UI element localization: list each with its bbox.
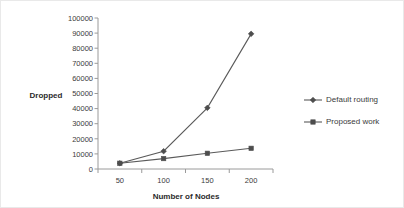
x-tick-label: 100 xyxy=(157,176,170,185)
series-layer xyxy=(117,31,254,166)
y-tick-label: 80000 xyxy=(72,44,93,53)
legend-label: Proposed work xyxy=(326,117,380,126)
y-axis-title: Dropped xyxy=(30,91,63,100)
legend-diamond-icon xyxy=(310,97,316,103)
y-tick-label: 40000 xyxy=(72,104,93,113)
y-tick-label: 0 xyxy=(89,165,93,174)
legend-item-2[interactable]: Proposed work xyxy=(304,117,380,126)
series-1 xyxy=(117,31,254,166)
y-tick-label: 90000 xyxy=(72,29,93,38)
chart-legend: Default routingProposed work xyxy=(304,95,380,126)
legend-label: Default routing xyxy=(326,95,378,104)
legend-item-1[interactable]: Default routing xyxy=(304,95,378,104)
x-tick-label: 150 xyxy=(201,176,214,185)
data-point-marker xyxy=(161,156,165,160)
y-axis-tick-labels: 0100002000030000400005000060000700008000… xyxy=(68,14,93,174)
y-tick-label: 10000 xyxy=(72,150,93,159)
y-tick-label: 70000 xyxy=(72,59,93,68)
series-line xyxy=(120,148,251,163)
data-point-marker xyxy=(205,151,209,155)
legend-square-icon xyxy=(311,120,315,124)
y-tick-label: 50000 xyxy=(72,89,93,98)
data-point-marker xyxy=(248,31,254,37)
y-tick-label: 100000 xyxy=(68,14,93,23)
data-point-marker xyxy=(118,161,122,165)
series-line xyxy=(120,34,251,163)
x-tick-label: 200 xyxy=(245,176,258,185)
y-tick-label: 20000 xyxy=(72,135,93,144)
x-tick-label: 50 xyxy=(116,176,124,185)
y-axis-tick-marks xyxy=(95,18,99,169)
y-tick-label: 60000 xyxy=(72,74,93,83)
x-axis-tick-labels: 50100150200 xyxy=(116,176,258,185)
data-point-marker xyxy=(249,146,253,150)
line-chart: 0100002000030000400005000060000700008000… xyxy=(1,1,404,208)
chart-figure: 0100002000030000400005000060000700008000… xyxy=(0,0,404,208)
x-axis-tick-marks xyxy=(98,169,273,173)
x-axis-title: Number of Nodes xyxy=(153,192,220,201)
y-tick-label: 30000 xyxy=(72,119,93,128)
series-2 xyxy=(118,146,254,165)
